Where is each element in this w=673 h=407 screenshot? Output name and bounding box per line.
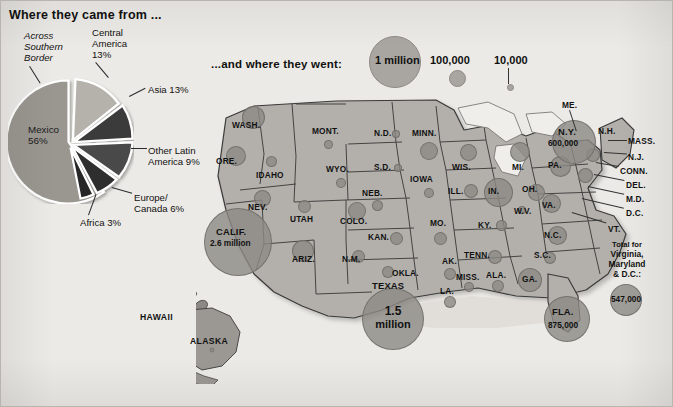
state-label-north-dakota: N.D. [374, 128, 391, 138]
bubble-wisconsin [460, 144, 477, 161]
state-label-iowa: IOWA [410, 174, 433, 184]
state-label-ohio: OH. [522, 184, 537, 194]
bubble-kentucky [496, 220, 507, 231]
bubble-wyoming [336, 178, 346, 188]
state-label-nebraska: NEB. [362, 188, 383, 198]
bubble-montana [324, 140, 333, 149]
bubble-florida [544, 296, 590, 342]
state-label-rhode-island: N.J. [628, 152, 644, 162]
pie-callout-across-l3: Border [24, 52, 53, 64]
bubble-minnesota [420, 142, 438, 160]
pie-callout-central-pct: 13% [92, 49, 111, 61]
state-label-oregon: ORE. [216, 156, 237, 166]
state-label-pennsylvania: PA. [548, 160, 562, 170]
bubble-louisiana [444, 296, 456, 308]
bubble-alabama [492, 280, 504, 292]
total-note-l4: & D.C.: [598, 270, 656, 279]
pie-callout-across-l2: Southern [24, 41, 63, 53]
state-label-texas: TEXAS [372, 280, 404, 291]
state-label-new-jersey: DEL. [626, 180, 646, 190]
pie-callout-other-latin-l2: America 9% [148, 156, 200, 168]
state-label-missouri: MO. [430, 218, 446, 228]
state-label-louisiana: LA. [440, 286, 454, 296]
state-label-tennessee: TENN. [464, 250, 490, 260]
pie-callout-europe-l1: Europe/ [134, 192, 168, 204]
state-label-new-hampshire: ME. [562, 100, 577, 110]
inset-label-alaska: ALASKA [190, 336, 228, 346]
bubble-north-dakota [392, 130, 400, 138]
state-label-connecticut: CONN. [620, 166, 648, 176]
state-label-west-virginia: W.V. [514, 206, 532, 216]
state-label-wyoming: WYO. [326, 164, 349, 174]
bubble-south-dakota [394, 164, 402, 172]
state-label-arkansas: AK. [442, 256, 457, 266]
bubble-iowa [424, 188, 434, 198]
bubble-illinois [464, 184, 478, 198]
bubble-new-jersey-cluster [578, 168, 593, 183]
size-key-label-10000: 10,000 [494, 54, 528, 66]
total-note-l3: Maryland [598, 260, 656, 269]
state-value-new-york: 600,000 [548, 138, 578, 148]
bubble-nebraska [372, 200, 383, 211]
pie-label-mexico-name: Mexico [28, 124, 59, 135]
bubble-michigan [510, 142, 530, 162]
bubble-arkansas [444, 268, 456, 280]
state-value-texas-l1: 1.5 [376, 304, 410, 318]
state-label-michigan: MI. [512, 162, 524, 172]
inset-label-hawaii: HAWAII [140, 312, 173, 322]
state-label-arizona: ARIZ. [292, 254, 315, 264]
bubble-idaho [266, 156, 277, 167]
state-label-virginia: VA. [542, 200, 556, 210]
state-label-south-carolina: S.C. [534, 250, 551, 260]
us-map: WASH. ORE. IDAHO MONT. WYO. N.D. S.D. MI… [196, 84, 666, 384]
state-label-maryland: D.C. [626, 208, 643, 218]
total-note-l1: Total for [598, 240, 656, 249]
pie-callout-central-l1: Central [92, 27, 123, 39]
alaska-shape [196, 308, 240, 384]
state-label-kentucky: KY. [478, 220, 492, 230]
state-label-utah: UTAH [290, 214, 313, 224]
state-label-new-mexico: N.M. [342, 254, 360, 264]
pie-callout-across-l1: Across [24, 30, 53, 42]
state-label-indiana: IN. [488, 186, 499, 196]
leader-massachusetts [608, 140, 627, 141]
state-label-oklahoma: OKLA. [392, 268, 419, 278]
bubble-tennessee [488, 250, 502, 264]
pie-callout-central-l2: America [92, 38, 127, 50]
state-label-minnesota: MINN. [412, 128, 437, 138]
pie-leader-other-latin [131, 148, 147, 149]
state-label-dc: VT. [608, 224, 621, 234]
state-label-georgia: GA. [522, 274, 537, 284]
state-label-massachusetts: MASS. [628, 136, 655, 146]
state-label-mississippi: MISS. [456, 272, 480, 282]
state-label-wisconsin: WIS. [452, 162, 471, 172]
pie-callout-asia: Asia 13% [148, 84, 189, 96]
state-label-delaware: M.D. [626, 194, 644, 204]
pie-callout-africa: Africa 3% [80, 217, 121, 229]
page-title-left: Where they came from ... [9, 8, 162, 22]
state-value-california: 2.6 million [210, 238, 251, 248]
state-label-florida: FLA. [552, 306, 574, 317]
state-value-florida: 875,000 [548, 320, 578, 330]
state-label-vermont: N.H. [598, 126, 615, 136]
state-label-california: CALIF. [216, 226, 246, 237]
state-label-montana: MONT. [312, 126, 339, 136]
bubble-missouri [434, 232, 447, 245]
page-title-right: ...and where they went: [211, 58, 342, 70]
total-note-l2: Virginia, [598, 250, 656, 259]
pie-svg [8, 78, 134, 204]
state-label-alabama: ALA. [486, 270, 506, 280]
state-value-texas-l2: million [368, 318, 418, 330]
bubble-utah [298, 200, 311, 213]
size-key-label-1-million: 1 million [375, 54, 420, 66]
state-label-idaho: IDAHO [256, 170, 284, 180]
pie-leader-central [95, 62, 109, 78]
bubble-mississippi [464, 282, 474, 292]
state-label-washington: WASH. [232, 120, 260, 130]
pie-label-mexico-pct: 56% [28, 135, 48, 146]
total-value-virginia-maryland-dc: 547,000 [600, 294, 652, 304]
bubble-kansas [390, 232, 403, 245]
state-label-north-carolina: N.C. [544, 230, 561, 240]
size-key-label-100000: 100,000 [430, 54, 470, 66]
state-label-kansas: KAN. [368, 232, 389, 242]
